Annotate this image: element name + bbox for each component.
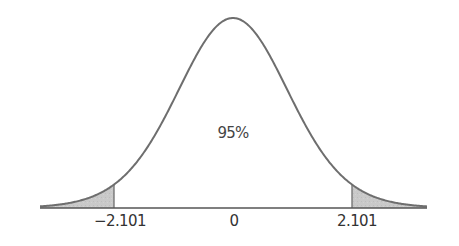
tick-label-lower-critical: −2.101 (94, 212, 146, 230)
central-area-label: 95% (218, 124, 249, 142)
tick-label-zero: 0 (230, 212, 239, 230)
right-tail-shaded-region (352, 185, 427, 208)
density-curve (40, 18, 427, 206)
t-distribution-chart (0, 0, 459, 246)
tick-label-upper-critical: 2.101 (337, 212, 377, 230)
